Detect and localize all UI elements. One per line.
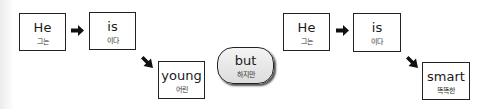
word-ko: 그는	[284, 38, 329, 46]
word-box-is-right: is 이다	[353, 13, 401, 52]
word-ko: 그는	[20, 38, 65, 46]
word-en: is	[90, 19, 135, 34]
connector-en: but	[218, 53, 273, 68]
connector-ko: 하지만	[218, 71, 273, 79]
word-en: smart	[423, 69, 469, 84]
word-ko: 이다	[354, 38, 400, 46]
word-en: He	[20, 20, 65, 35]
word-en: He	[284, 20, 329, 35]
word-box-he-right: He 그는	[283, 13, 330, 51]
word-ko: 이다	[90, 37, 135, 45]
word-ko: 어린	[159, 86, 204, 94]
right-arrow-icon	[71, 25, 84, 36]
word-box-is-left: is 이다	[89, 12, 136, 50]
word-en: young	[159, 68, 204, 83]
left-edge-shading	[0, 0, 14, 109]
down-right-arrow-icon	[141, 56, 153, 68]
word-box-smart: smart 똑똑한	[422, 62, 470, 100]
connector-but: but 하지만	[217, 47, 274, 84]
down-right-arrow-icon	[406, 56, 418, 68]
word-ko: 똑똑한	[423, 87, 469, 95]
word-box-young: young 어린	[158, 61, 205, 99]
right-arrow-icon	[336, 25, 349, 36]
word-en: is	[354, 20, 400, 35]
word-box-he-left: He 그는	[19, 13, 66, 51]
